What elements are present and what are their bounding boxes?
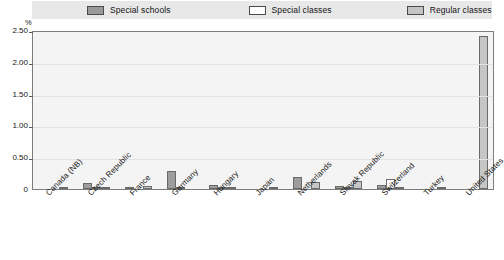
chart-container: Special schools Special classes Regular … (0, 0, 504, 260)
legend-label: Special schools (110, 5, 171, 15)
x-axis-labels: Canada (NB)Czech RepublicFranceGermanyHu… (32, 191, 494, 259)
dark-gray-swatch-icon (87, 6, 104, 15)
plot-area (32, 31, 494, 190)
y-axis-tick-label: 0 (2, 185, 28, 194)
chart-legend: Special schools Special classes Regular … (32, 1, 492, 19)
light-gray-swatch-icon (407, 6, 424, 15)
bar-series-container (33, 32, 493, 189)
bar (479, 36, 488, 189)
y-axis-tick-label: 2.00 (2, 58, 28, 67)
y-axis-tick (29, 96, 33, 97)
gridline (33, 159, 493, 160)
bar-group (201, 32, 243, 189)
y-axis-tick-label: 1.50 (2, 90, 28, 99)
y-axis-tick (29, 64, 33, 65)
y-axis-tick-label: 0.50 (2, 153, 28, 162)
legend-label: Special classes (272, 5, 332, 15)
bar-group (159, 32, 201, 189)
legend-item-special-classes: Special classes (249, 5, 332, 15)
y-axis-tick-label: 2.50 (2, 26, 28, 35)
legend-label: Regular classes (430, 5, 492, 15)
legend-item-regular-classes: Regular classes (407, 5, 492, 15)
gridline (33, 96, 493, 97)
y-axis-tick (29, 32, 33, 33)
bar-group (243, 32, 285, 189)
y-axis-tick-label: 1.00 (2, 121, 28, 130)
legend-item-special-schools: Special schools (87, 5, 171, 15)
bar-group (411, 32, 453, 189)
white-swatch-icon (249, 6, 266, 15)
y-axis-tick (29, 127, 33, 128)
y-axis-tick (29, 159, 33, 160)
gridline (33, 64, 493, 65)
gridline (33, 127, 493, 128)
